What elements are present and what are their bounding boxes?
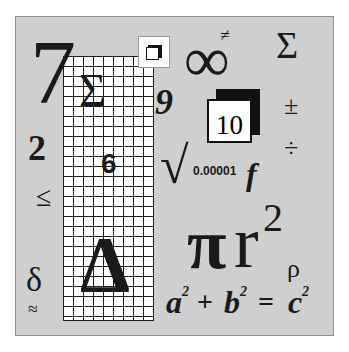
- delta-large: Δ: [80, 225, 130, 305]
- rho-sign: ρ: [287, 256, 300, 282]
- function-f: f: [246, 158, 257, 190]
- eq-plus: +: [197, 288, 213, 316]
- eq-c-exponent: 2: [302, 285, 309, 299]
- eq-a: a: [166, 286, 182, 318]
- restore-window-icon: [138, 36, 170, 68]
- digit-two: 2: [28, 130, 46, 166]
- square-root-sign: √: [160, 140, 189, 192]
- radius-r: r: [234, 205, 259, 279]
- divide-sign: ÷: [284, 136, 298, 162]
- plus-minus-sign: ±: [284, 93, 298, 119]
- less-equal-sign: ≤: [36, 183, 51, 211]
- digit-seven: 7: [30, 26, 76, 118]
- eq-a-exponent: 2: [182, 285, 189, 299]
- ten-box: 10: [207, 99, 252, 143]
- eq-b-exponent: 2: [240, 285, 247, 299]
- sigma-right: Σ: [276, 26, 298, 64]
- delta-small: δ: [26, 263, 42, 297]
- pi-sign: π: [187, 208, 226, 280]
- eq-c: c: [288, 286, 302, 318]
- r-exponent: 2: [263, 198, 283, 238]
- digit-six: 6: [101, 150, 117, 178]
- eq-equals: =: [258, 288, 274, 316]
- digit-nine: 9: [155, 84, 173, 120]
- sigma-on-grid: Σ: [79, 68, 106, 114]
- restore-icon-front-square: [146, 47, 159, 60]
- infinity-sign: ∞: [184, 28, 230, 92]
- tiny-number: 0.00001: [193, 165, 236, 177]
- eq-b: b: [224, 286, 240, 318]
- approx-sign: ≈: [28, 300, 38, 318]
- ten-label: 10: [209, 110, 250, 141]
